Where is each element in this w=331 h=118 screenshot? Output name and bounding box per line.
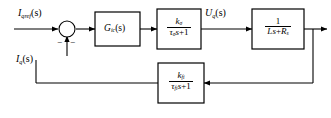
feedback-denominator: τfis+1 bbox=[169, 81, 192, 92]
converter-numerator: kσ bbox=[174, 17, 185, 27]
label-reference-input: Iqref(s) bbox=[18, 8, 42, 19]
label-controller-arg: (s) bbox=[115, 23, 125, 33]
label-feedback-filter: kfi τfis+1 bbox=[163, 71, 199, 92]
label-intermediate-output: Uq(s) bbox=[205, 8, 226, 19]
plant-den-R-sub: s bbox=[286, 31, 288, 37]
label-plant: 1 Ls+Rs bbox=[258, 17, 298, 38]
label-controller-base: G bbox=[104, 23, 111, 33]
label-controller: Gic(s) bbox=[104, 24, 125, 34]
sign-minus-left: − bbox=[57, 38, 62, 47]
sign-minus-bottom: − bbox=[70, 38, 75, 47]
label-converter: kσ τσs+1 bbox=[162, 17, 196, 38]
label-feedback-arg: (s) bbox=[22, 53, 33, 64]
block-diagram: Iqref(s) Iq(s) Uq(s) − − Gic(s) kσ τσs+1… bbox=[0, 0, 331, 118]
feedback-numerator: kfi bbox=[175, 71, 186, 81]
summing-junction bbox=[59, 21, 75, 37]
plant-numerator: 1 bbox=[274, 17, 283, 26]
label-reference-arg: (s) bbox=[31, 7, 42, 18]
label-uq-arg: (s) bbox=[215, 7, 226, 18]
converter-denominator: τσs+1 bbox=[167, 27, 190, 38]
label-feedback-input: Iq(s) bbox=[16, 54, 33, 65]
converter-num-sub: σ bbox=[180, 20, 183, 26]
label-reference-sub: qref bbox=[21, 12, 31, 19]
feedback-num-sub: fi bbox=[181, 74, 184, 80]
feedback-den-const: 1 bbox=[186, 81, 191, 91]
plant-denominator: Ls+Rs bbox=[265, 26, 290, 37]
converter-den-const: 1 bbox=[184, 27, 189, 37]
